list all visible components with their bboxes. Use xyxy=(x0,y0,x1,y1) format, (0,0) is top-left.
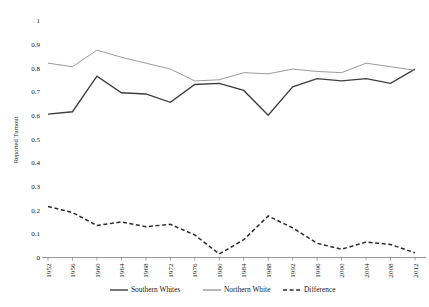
chart-legend: Southern WhitesNorthern WhiteDifference xyxy=(110,285,336,294)
x-tick-label: 1964 xyxy=(118,263,126,278)
x-tick-label: 2012 xyxy=(412,263,420,278)
y-tick-label: 0.9 xyxy=(31,41,40,49)
series-line-northern-white xyxy=(48,50,415,81)
x-tick-label: 2008 xyxy=(387,263,395,278)
series-line-difference xyxy=(48,207,415,254)
y-tick-label: 0.3 xyxy=(31,183,40,191)
x-tick-label: 1952 xyxy=(45,263,53,278)
y-tick-label: 0.6 xyxy=(31,112,40,120)
x-tick-label: 2004 xyxy=(363,263,371,278)
line-chart: 00.10.20.30.40.50.60.70.80.91 Reported T… xyxy=(0,0,429,307)
legend-label-southern-whites: Southern Whites xyxy=(131,285,180,294)
x-axis-tick-labels: 1952195619601964196819721976198019841988… xyxy=(45,263,420,278)
y-tick-label: 0.7 xyxy=(31,88,40,96)
legend-label-difference: Difference xyxy=(304,285,336,294)
x-tick-label: 1976 xyxy=(191,263,199,278)
x-axis xyxy=(42,258,426,261)
y-tick-label: 0.8 xyxy=(31,65,40,73)
x-tick-label: 1960 xyxy=(94,263,102,278)
y-axis-tick-labels: 00.10.20.30.40.50.60.70.80.91 xyxy=(31,17,40,262)
y-tick-label: 0.5 xyxy=(31,136,40,144)
x-tick-label: 1996 xyxy=(314,263,322,278)
y-tick-label: 0.1 xyxy=(31,230,40,238)
series-lines xyxy=(48,50,415,254)
legend-label-northern-white: Northern White xyxy=(224,285,271,294)
x-tick-label: 1984 xyxy=(240,263,248,278)
y-tick-label: 0.2 xyxy=(31,207,40,215)
x-tick-label: 1980 xyxy=(216,263,224,278)
y-tick-label: 0.4 xyxy=(31,159,40,167)
y-axis-title-text: Reported Turnout xyxy=(12,116,19,163)
x-tick-label: 1956 xyxy=(69,263,77,278)
x-tick-label: 1992 xyxy=(289,263,297,278)
x-tick-label: 1972 xyxy=(167,263,175,278)
x-tick-label: 1988 xyxy=(265,263,273,278)
y-tick-label: 0 xyxy=(36,254,40,262)
y-tick-label: 1 xyxy=(36,17,40,25)
y-axis-title: Reported Turnout xyxy=(12,116,19,163)
chart-container: 00.10.20.30.40.50.60.70.80.91 Reported T… xyxy=(0,0,429,307)
x-tick-label: 2000 xyxy=(338,263,346,278)
x-tick-label: 1968 xyxy=(142,263,150,278)
